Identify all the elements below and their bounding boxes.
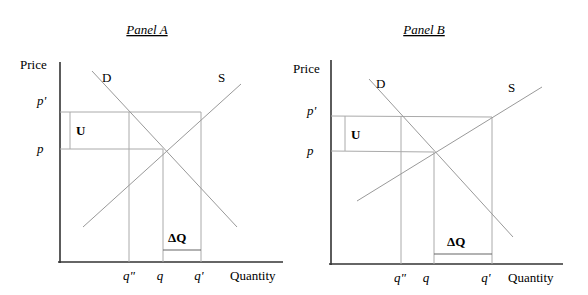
panel-b-q-label: q	[423, 270, 430, 285]
panel-b-supply-curve	[357, 87, 542, 201]
panel-b-supply-label: S	[508, 80, 515, 95]
panel-a-supply-label: S	[218, 70, 225, 85]
panel-a-u-label: U	[76, 123, 86, 138]
panel-a-q-label: q	[157, 268, 164, 283]
panel-b-p-prime-line	[331, 116, 492, 117]
panel-b-delta-q-label: ΔQ	[447, 234, 465, 249]
supply-demand-diagram: Panel A Price p' p D S U ΔQ q" q q' Quan…	[0, 0, 588, 295]
panel-a-x-axis-label: Quantity	[230, 268, 276, 283]
panel-b-demand-label: D	[376, 76, 385, 91]
panel-a-y-axis-label: Price	[20, 57, 47, 72]
panel-b-y-axis-label: Price	[293, 61, 320, 76]
panel-b-q-prime-label: q'	[481, 270, 491, 285]
panel-b-title: Panel B	[402, 22, 445, 37]
panel-b-demand-curve	[369, 79, 513, 237]
panel-b-p-line	[331, 151, 434, 152]
panel-a-p-prime-label: p'	[36, 93, 47, 108]
panel-b-p-prime-label: p'	[306, 103, 317, 118]
panel-b-x-axis-label: Quantity	[508, 270, 554, 285]
panel-a-demand-label: D	[102, 70, 111, 85]
panel-a-q-prime-label: q'	[194, 268, 204, 283]
panel-b: Panel B Price p' p D S U ΔQ q" q q' Quan…	[293, 22, 563, 285]
panel-a-q-double-prime-label: q"	[123, 268, 136, 283]
panel-a-title: Panel A	[125, 22, 167, 37]
panel-b-u-label: U	[351, 127, 361, 142]
panel-a-p-label: p	[36, 141, 44, 156]
panel-a: Panel A Price p' p D S U ΔQ q" q q' Quan…	[20, 22, 283, 283]
panel-b-q-double-prime-label: q"	[394, 270, 407, 285]
panel-a-delta-q-label: ΔQ	[168, 230, 186, 245]
panel-b-p-label: p	[306, 143, 314, 158]
